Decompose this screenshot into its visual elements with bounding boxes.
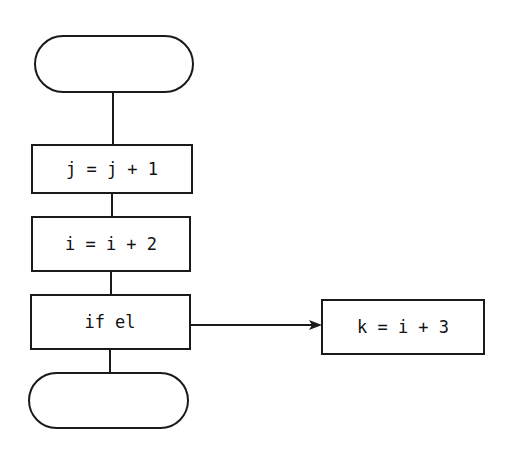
start-terminator [35, 36, 193, 92]
step2-label: i = i + 2 [65, 234, 157, 254]
branch-label: k = i + 3 [357, 317, 449, 337]
step1-label: j = j + 1 [66, 159, 158, 179]
cond-label: if el [84, 312, 135, 332]
flowchart: j = j + 1 i = i + 2 if el k = i + 3 [0, 0, 521, 459]
end-terminator [29, 373, 188, 428]
